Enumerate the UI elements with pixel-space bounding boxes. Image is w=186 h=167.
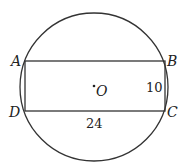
vertex-label-d: D xyxy=(8,104,20,120)
vertex-label-b: B xyxy=(166,53,177,69)
center-label-o: O xyxy=(96,83,108,99)
vertex-label-c: C xyxy=(167,104,178,120)
center-point-o xyxy=(93,85,96,88)
vertex-label-a: A xyxy=(9,53,21,69)
side-length-dc: 24 xyxy=(86,116,103,131)
side-length-bc: 10 xyxy=(146,80,163,95)
geometry-diagram: A B C D O 10 24 xyxy=(0,0,186,167)
